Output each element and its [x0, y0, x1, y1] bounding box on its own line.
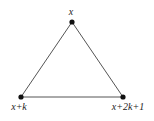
edge-top-bottom-right	[72, 22, 123, 97]
triangle-diagram: x x+k x+2k+1	[0, 0, 154, 121]
node-top	[69, 19, 74, 24]
label-bottom-right: x+2k+1	[111, 101, 144, 112]
node-bottom-right	[120, 94, 125, 99]
label-top: x	[68, 6, 74, 17]
label-bottom-left: x+k	[10, 101, 27, 112]
edge-top-bottom-left	[21, 22, 72, 97]
node-bottom-left	[18, 94, 23, 99]
